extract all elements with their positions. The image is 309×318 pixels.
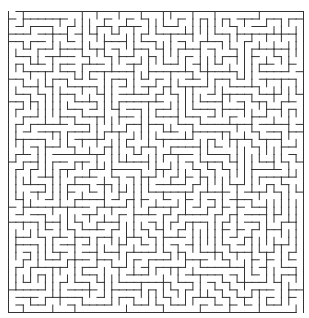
maze-grid [0,0,309,318]
maze-walls [9,12,304,313]
